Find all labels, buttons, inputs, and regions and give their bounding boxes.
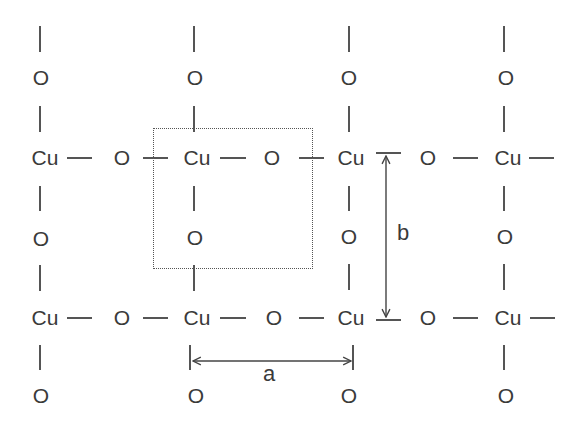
lattice-constant-arrows [0,0,580,427]
lattice-constant-b-label: b [397,221,409,245]
lattice-constant-a-label: a [263,362,275,386]
